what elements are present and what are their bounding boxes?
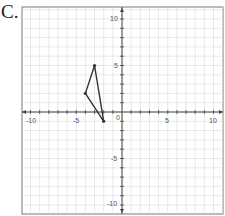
vertex-point bbox=[93, 64, 96, 67]
x-tick-label: -10 bbox=[26, 117, 36, 124]
coordinate-plane: -10 -5 0 5 10 10 5 -5 -10 bbox=[0, 0, 225, 216]
y-tick-label: -5 bbox=[111, 155, 117, 162]
vertex-point bbox=[84, 92, 87, 95]
x-tick-label: 0 bbox=[116, 114, 120, 121]
y-tick-label: 10 bbox=[110, 15, 118, 22]
vertex-point bbox=[102, 120, 105, 123]
x-tick-label: 5 bbox=[165, 117, 169, 124]
x-tick-label: 10 bbox=[209, 117, 217, 124]
y-tick-label: 5 bbox=[114, 62, 118, 69]
x-tick-label: -5 bbox=[73, 117, 79, 124]
y-tick-label: -10 bbox=[107, 200, 117, 207]
